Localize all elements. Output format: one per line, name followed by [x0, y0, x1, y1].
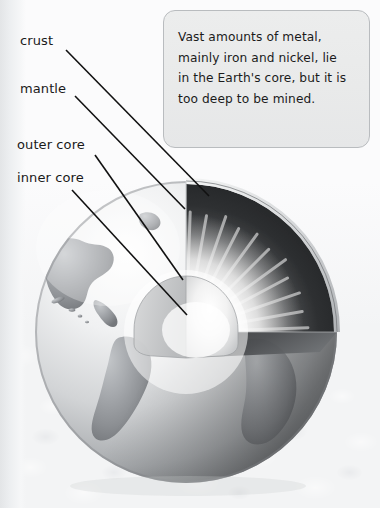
globe-drop-shadow [70, 476, 306, 496]
info-callout-box: Vast amounts of metal, mainly iron and n… [163, 10, 370, 148]
inner-core-hotspot [162, 302, 230, 358]
inner-core-layer [124, 270, 248, 394]
label-inner-core: inner core [17, 170, 84, 185]
info-callout-text: Vast amounts of metal, mainly iron and n… [178, 27, 357, 109]
illustration-page: Vast amounts of metal, mainly iron and n… [0, 0, 380, 508]
label-outer-core: outer core [17, 137, 85, 152]
label-crust: crust [20, 33, 53, 48]
label-mantle: mantle [20, 81, 66, 96]
